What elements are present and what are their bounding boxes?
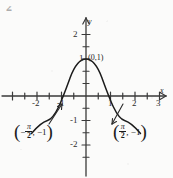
right-minimum-annotation: ( π 2 , −1 )	[113, 122, 147, 141]
x-tick-label-pos2: 2	[132, 98, 137, 108]
right-annotation-y-value: , −1	[126, 127, 140, 137]
left-annotation-close-paren: )	[46, 122, 52, 141]
right-annotation-denominator: 2	[120, 132, 126, 140]
right-annotation-fraction: π 2	[119, 123, 126, 140]
y-tick-label-neg1: -1	[70, 115, 78, 125]
left-annotation-numerator: π	[26, 123, 32, 131]
right-annotation-close-paren: )	[140, 122, 146, 141]
x-tick-label-pos3: 3	[156, 98, 161, 108]
left-minimum-annotation: ( − π 2 , −1 )	[14, 122, 53, 141]
coordinate-plane	[0, 0, 173, 178]
y-tick-label-neg2: -2	[70, 139, 78, 149]
x-tick-label-pos1: 1	[108, 98, 113, 108]
y-tick-label-pos1: 1	[79, 53, 84, 63]
y-axis-label: y	[88, 17, 92, 26]
x-axis-label: x	[160, 86, 164, 95]
right-annotation-numerator: π	[120, 123, 126, 131]
x-tick-label-neg1: -1	[57, 98, 65, 108]
left-annotation-y-value: , −1	[32, 127, 46, 137]
x-tick-label-neg2: -2	[32, 98, 40, 108]
left-annotation-fraction: π 2	[25, 123, 32, 140]
vertex-point-label: (0,1)	[88, 53, 103, 62]
y-tick-label-pos2: 2	[73, 29, 78, 39]
axis-lines	[2, 18, 166, 176]
left-annotation-denominator: 2	[26, 132, 32, 140]
figure-canvas: 2	[0, 0, 173, 178]
